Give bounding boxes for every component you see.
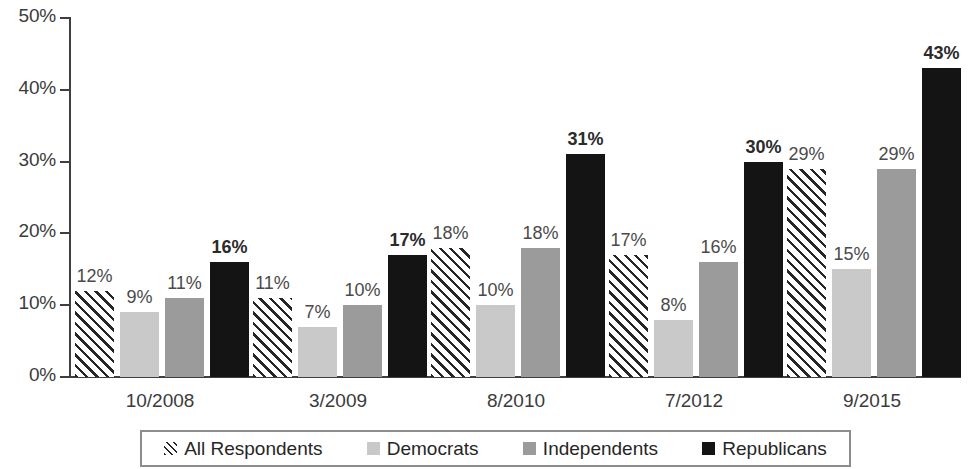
bar-democrats bbox=[654, 320, 693, 377]
legend-item-label: Republicans bbox=[722, 438, 827, 460]
bar-value-label: 16% bbox=[689, 237, 749, 258]
bar-independents bbox=[521, 248, 560, 377]
y-tick-label: 50% bbox=[0, 5, 56, 27]
hatch-swatch-icon bbox=[164, 442, 177, 455]
bar-independents bbox=[699, 262, 738, 377]
bar-democrats bbox=[298, 327, 337, 377]
bar-all-respondents bbox=[253, 298, 292, 377]
mid-gray-swatch-icon bbox=[523, 442, 536, 455]
bar-value-label: 8% bbox=[644, 295, 704, 316]
y-tick-0 bbox=[60, 376, 71, 378]
category-label: 3/2009 bbox=[248, 390, 428, 412]
bar-value-label: 18% bbox=[421, 223, 481, 244]
bar-all-respondents bbox=[787, 169, 826, 377]
bar-group: 18%10%18%31% bbox=[431, 18, 605, 377]
category-label: 7/2012 bbox=[604, 390, 784, 412]
bar-value-label: 43% bbox=[912, 43, 968, 64]
y-tick-label: 40% bbox=[0, 77, 56, 99]
bar-all-respondents bbox=[431, 248, 470, 377]
bar-chart: 0%10%20%30%40%50% 12%9%11%16%11%7%10%17%… bbox=[0, 0, 968, 469]
bar-value-label: 10% bbox=[466, 280, 526, 301]
chart-legend: All RespondentsDemocratsIndependentsRepu… bbox=[140, 430, 851, 467]
category-label: 8/2010 bbox=[426, 390, 606, 412]
black-swatch-icon bbox=[702, 442, 715, 455]
legend-item-label: All Respondents bbox=[184, 438, 322, 460]
y-tick-label: 10% bbox=[0, 292, 56, 314]
y-tick-20 bbox=[60, 232, 71, 234]
bar-democrats bbox=[476, 305, 515, 377]
y-tick-label: 20% bbox=[0, 220, 56, 242]
bar-republicans bbox=[388, 255, 427, 377]
bar-democrats bbox=[832, 269, 871, 377]
bar-value-label: 31% bbox=[556, 129, 616, 150]
plot-area: 12%9%11%16%11%7%10%17%18%10%18%31%17%8%1… bbox=[71, 18, 961, 377]
bar-group: 17%8%16%30% bbox=[609, 18, 783, 377]
bar-value-label: 17% bbox=[599, 230, 659, 251]
bar-value-label: 29% bbox=[777, 144, 837, 165]
legend-item-label: Democrats bbox=[387, 438, 479, 460]
bar-all-respondents bbox=[609, 255, 648, 377]
y-tick-label: 0% bbox=[0, 364, 56, 386]
bar-independents bbox=[877, 169, 916, 377]
bar-democrats bbox=[120, 312, 159, 377]
bar-group: 12%9%11%16% bbox=[75, 18, 249, 377]
bar-republicans bbox=[744, 162, 783, 377]
bar-value-label: 7% bbox=[288, 302, 348, 323]
bar-value-label: 11% bbox=[243, 273, 303, 294]
bar-value-label: 12% bbox=[65, 266, 125, 287]
y-tick-50 bbox=[60, 17, 71, 19]
bar-group: 29%15%29%43% bbox=[787, 18, 961, 377]
bar-value-label: 18% bbox=[511, 223, 571, 244]
legend-item-label: Independents bbox=[543, 438, 658, 460]
bar-value-label: 11% bbox=[155, 273, 215, 294]
bar-value-label: 16% bbox=[200, 237, 260, 258]
legend-item-democrats[interactable]: Democrats bbox=[367, 438, 479, 460]
y-tick-30 bbox=[60, 161, 71, 163]
y-tick-40 bbox=[60, 89, 71, 91]
bar-all-respondents bbox=[75, 291, 114, 377]
bar-value-label: 10% bbox=[333, 280, 393, 301]
legend-item-republicans[interactable]: Republicans bbox=[702, 438, 827, 460]
category-label: 10/2008 bbox=[70, 390, 250, 412]
y-tick-label: 30% bbox=[0, 149, 56, 171]
light-gray-swatch-icon bbox=[367, 442, 380, 455]
y-tick-10 bbox=[60, 304, 71, 306]
legend-item-independents[interactable]: Independents bbox=[523, 438, 658, 460]
bar-value-label: 29% bbox=[867, 144, 927, 165]
bar-independents bbox=[343, 305, 382, 377]
legend-item-all-respondents[interactable]: All Respondents bbox=[164, 438, 322, 460]
bar-republicans bbox=[566, 154, 605, 377]
bar-republicans bbox=[922, 68, 961, 377]
category-label: 9/2015 bbox=[782, 390, 962, 412]
bar-independents bbox=[165, 298, 204, 377]
bar-value-label: 15% bbox=[822, 244, 882, 265]
bar-group: 11%7%10%17% bbox=[253, 18, 427, 377]
